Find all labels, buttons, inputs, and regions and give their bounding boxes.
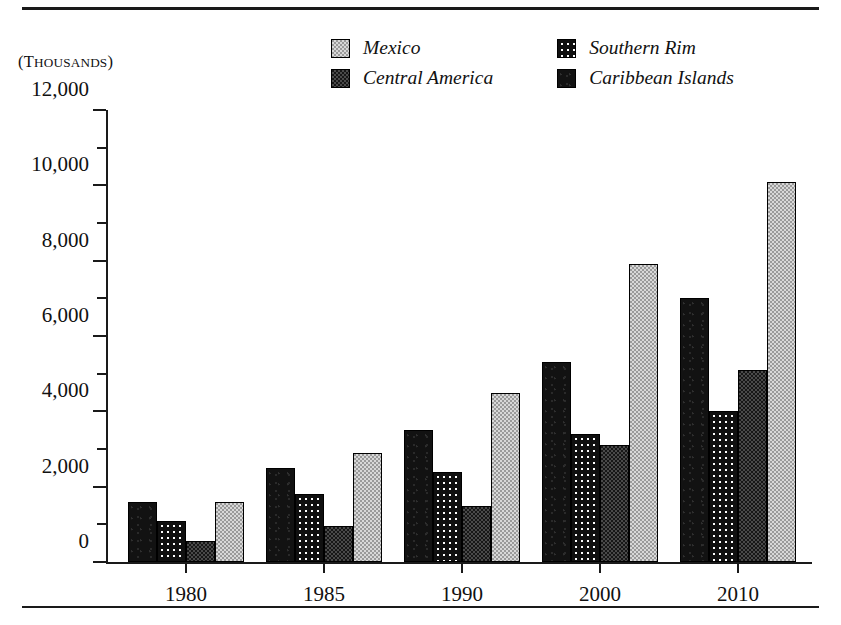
bar	[680, 298, 709, 562]
y-axis-minor-tick	[97, 373, 106, 375]
bar	[542, 362, 571, 562]
units-caption-rest: HOUSANDS	[34, 55, 107, 70]
mexico-swatch-icon	[331, 39, 350, 58]
southern-rim-swatch-icon	[557, 39, 576, 58]
x-axis-label: 2000	[579, 584, 621, 605]
x-axis-label: 2010	[717, 584, 759, 605]
x-axis-line	[106, 562, 812, 564]
y-axis-major-tick	[93, 561, 106, 563]
chart-legend: Mexico Southern Rim Central America Cari…	[331, 36, 734, 90]
bar	[709, 411, 738, 562]
bar	[266, 468, 295, 562]
x-axis-tick	[323, 562, 325, 573]
y-axis-major-tick	[93, 410, 106, 412]
y-axis-label: 4,000	[42, 380, 89, 401]
bar	[462, 506, 491, 563]
y-axis-label: 6,000	[42, 305, 89, 326]
y-axis-minor-tick	[97, 222, 106, 224]
bar	[738, 370, 767, 562]
legend-label-mexico: Mexico	[363, 38, 420, 58]
top-rule	[22, 7, 819, 10]
bar	[404, 430, 433, 562]
y-axis-major-tick	[93, 335, 106, 337]
legend-item-central-america: Central America	[331, 66, 493, 90]
legend-label-southern-rim: Southern Rim	[589, 38, 696, 58]
y-axis-label: 12,000	[31, 79, 89, 100]
bar	[629, 264, 658, 562]
y-axis-line	[106, 110, 108, 562]
units-caption-first: (T	[18, 52, 34, 71]
y-axis-minor-tick	[97, 297, 106, 299]
legend-label-central-america: Central America	[363, 68, 493, 88]
y-axis-label: 2,000	[42, 455, 89, 476]
y-axis-label: 0	[79, 531, 90, 552]
y-axis-major-tick	[93, 184, 106, 186]
x-axis-tick	[185, 562, 187, 573]
bar	[215, 502, 244, 562]
bar	[353, 453, 382, 562]
y-axis-label: 10,000	[31, 154, 89, 175]
x-axis-tick	[461, 562, 463, 573]
bar-group: 1980	[128, 110, 244, 562]
y-axis-label: 8,000	[42, 229, 89, 250]
x-axis-label: 1985	[303, 584, 345, 605]
bar	[128, 502, 157, 562]
legend-item-southern-rim: Southern Rim	[557, 36, 734, 60]
x-axis-tick	[737, 562, 739, 573]
y-axis-major-tick	[93, 109, 106, 111]
units-caption: (THOUSANDS)	[18, 52, 113, 72]
y-axis-major-tick	[93, 486, 106, 488]
bar	[295, 494, 324, 562]
bar-group: 1985	[266, 110, 382, 562]
bar-group: 1990	[404, 110, 520, 562]
y-axis-major-tick	[93, 260, 106, 262]
legend-item-caribbean-islands: Caribbean Islands	[557, 66, 734, 90]
units-caption-close: )	[107, 52, 113, 71]
plot-area: 02,0004,0006,0008,00010,00012,000 198019…	[106, 110, 812, 562]
bar-group: 2010	[680, 110, 796, 562]
central-america-swatch-icon	[331, 69, 350, 88]
bar	[433, 472, 462, 562]
bar	[186, 541, 215, 562]
x-axis-label: 1990	[441, 584, 483, 605]
bar	[767, 182, 796, 562]
x-axis-label: 1980	[165, 584, 207, 605]
y-axis-minor-tick	[97, 448, 106, 450]
x-axis-tick	[599, 562, 601, 573]
y-axis-minor-tick	[97, 523, 106, 525]
bar-group: 2000	[542, 110, 658, 562]
bar	[600, 445, 629, 562]
caribbean-islands-swatch-icon	[557, 69, 576, 88]
bar	[491, 393, 520, 563]
bar	[157, 521, 186, 562]
bar	[324, 526, 353, 562]
bottom-rule	[22, 606, 819, 608]
legend-label-caribbean-islands: Caribbean Islands	[589, 68, 734, 88]
y-axis-minor-tick	[97, 147, 106, 149]
legend-item-mexico: Mexico	[331, 36, 493, 60]
bar	[571, 434, 600, 562]
